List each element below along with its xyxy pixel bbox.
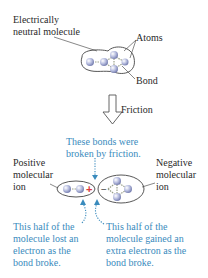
bonds-note-line2: broken by friction. xyxy=(66,148,141,159)
friction-label: Friction xyxy=(121,104,153,115)
molecule-label-line2: neutral molecule xyxy=(13,26,80,37)
right-note-line1: This half of the xyxy=(106,221,167,232)
bond-label: Bond xyxy=(136,75,158,86)
left-note-line3: electron as the xyxy=(13,245,71,256)
left-note-line1: This half of the xyxy=(13,221,74,232)
negative-ion-line1: Negative xyxy=(156,157,192,168)
bonds-note-line1: These bonds were xyxy=(66,136,138,147)
friction-arrow-icon xyxy=(103,95,122,124)
svg-text:−: − xyxy=(101,184,107,195)
right-note-line2: molecule gained an xyxy=(106,233,184,244)
left-note-line2: molecule lost an xyxy=(13,233,79,244)
positive-ion-line3: ion xyxy=(13,181,26,192)
right-note-line4: bond broke. xyxy=(106,257,154,268)
left-note-line4: bond broke. xyxy=(13,257,61,268)
atom-icons xyxy=(86,51,129,73)
atoms-label: Atoms xyxy=(136,32,163,43)
right-note-line3: extra electron as the xyxy=(106,245,186,256)
negative-ion-line3: ion xyxy=(156,181,169,192)
plus-sign: + xyxy=(86,183,92,195)
positive-ion-line2: molecular xyxy=(13,169,53,180)
positive-ion-line1: Positive xyxy=(13,157,45,168)
negative-ion-line2: molecular xyxy=(156,169,196,180)
molecule-label-line1: Electrically xyxy=(13,14,59,25)
